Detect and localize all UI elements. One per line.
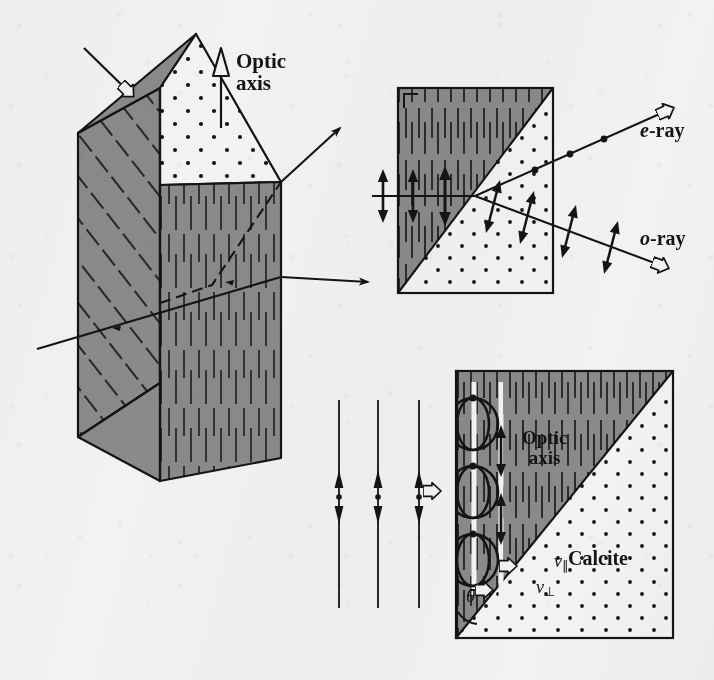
v-perpendicular-subscript: ⊥ — [544, 584, 555, 599]
e-ray-label-italic: e — [640, 119, 649, 141]
optic-axis-label-inner: Opticaxis — [522, 428, 567, 468]
wavefront-line — [374, 400, 383, 608]
exit-o-ray — [281, 277, 368, 282]
optic-axis-label-line2: axis — [236, 71, 271, 95]
crystal-front-face — [160, 182, 281, 481]
polarization-dot-icon — [532, 167, 539, 174]
crystal-left-face — [78, 88, 160, 437]
polarization-dot-icon — [601, 136, 608, 143]
o-ray-label: o-ray — [640, 228, 686, 249]
e-ray-label: e-ray — [640, 120, 684, 141]
crystal-3d-panel — [37, 34, 368, 481]
v-parallel-subscript: ∥ — [562, 558, 569, 573]
exit-e-ray — [281, 128, 340, 182]
wavelet-left-mask — [440, 371, 457, 638]
diagram-canvas — [0, 0, 714, 680]
wavefront-line — [335, 400, 344, 608]
v-perpendicular-symbol: v — [536, 577, 544, 597]
theta-angle-label: θ — [466, 586, 475, 606]
wavefront-line — [415, 400, 424, 608]
double-headed-arrow-icon — [560, 205, 577, 258]
optic-axis-inner-line1: Optic — [522, 427, 567, 448]
v-parallel-symbol: v — [554, 551, 562, 571]
optic-axis-label-top: Opticaxis — [236, 50, 286, 94]
wavelet-source-dot-icon — [469, 394, 476, 401]
calcite-birefringence-figure: Opticaxis e-ray o-ray Opticaxis Calcite … — [0, 0, 714, 680]
optic-axis-label-line1: Optic — [236, 49, 286, 73]
hollow-up-arrow-icon — [213, 48, 229, 76]
velocity-parallel-label: v∥ — [554, 552, 569, 573]
o-ray-label-rest: -ray — [650, 227, 686, 249]
e-ray-label-rest: -ray — [649, 119, 685, 141]
velocity-perpendicular-label: v⊥ — [536, 578, 555, 599]
optic-axis-inner-line2: axis — [529, 447, 561, 468]
polarization-dot-icon — [567, 151, 574, 158]
incoming-plane-wavefronts — [335, 400, 440, 608]
hollow-down-right-arrow-icon — [84, 48, 133, 96]
wavelet-source-dot-icon — [469, 462, 476, 469]
o-ray-label-italic: o — [640, 227, 650, 249]
wavelet-source-dot-icon — [469, 530, 476, 537]
ray-split-panel — [372, 88, 673, 293]
double-headed-arrow-icon — [602, 221, 619, 274]
huygens-left-edge — [456, 371, 457, 638]
calcite-material-label: Calcite — [568, 548, 628, 569]
